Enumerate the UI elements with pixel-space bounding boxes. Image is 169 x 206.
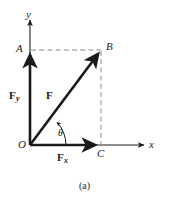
y-axis-label: y xyxy=(26,9,31,20)
point-label-origin: O xyxy=(18,139,26,150)
x-axis-label: x xyxy=(149,139,154,150)
vector-f-arrow xyxy=(30,54,98,145)
figure-caption: (a) xyxy=(0,181,169,191)
vector-label-fx-subscript: x xyxy=(64,156,68,165)
vector-label-f: F xyxy=(46,90,53,101)
point-label-c: C xyxy=(97,148,104,159)
vector-diagram-figure: y x A B C O Fy Fx F θ (a) xyxy=(0,0,169,206)
vector-label-fx: Fx xyxy=(57,152,68,165)
vector-label-fy-subscript: y xyxy=(16,94,20,103)
vector-label-fy: Fy xyxy=(9,90,20,103)
angle-theta-label: θ xyxy=(58,128,63,138)
point-label-a: A xyxy=(16,43,23,54)
point-label-b: B xyxy=(106,41,113,52)
vector-label-fx-symbol: F xyxy=(57,151,64,163)
vector-label-fy-symbol: F xyxy=(9,89,16,101)
vector-diagram-canvas xyxy=(0,0,169,206)
